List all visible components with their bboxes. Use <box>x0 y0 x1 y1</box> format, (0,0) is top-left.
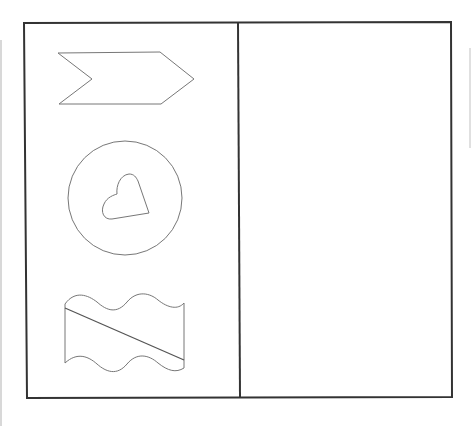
diagram-canvas <box>0 0 471 426</box>
chevron-arrow-icon <box>58 52 194 104</box>
wavy-rectangle-icon <box>65 294 184 372</box>
panel-divider <box>238 23 240 397</box>
circle-with-heart-icon <box>68 141 182 255</box>
